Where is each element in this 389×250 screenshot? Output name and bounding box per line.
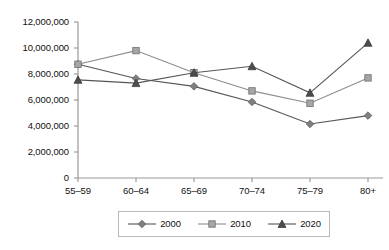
diamond-marker-icon [248,98,256,106]
legend-entry-2010[interactable]: 2010 [197,218,251,230]
x-axis-tick-label: 75–79 [280,186,340,196]
square-marker-icon [197,218,227,230]
series-line [78,51,368,104]
chart-axes [74,22,383,182]
x-axis-tick-label: 55–59 [48,186,108,196]
triangle-marker-icon [267,218,297,230]
legend-label: 2010 [230,219,251,229]
x-axis-tick-label: 60–64 [106,186,166,196]
triangle-marker-icon [248,62,256,69]
y-axis-tick-label: 12,000,000 [0,17,69,27]
square-marker-icon [75,61,81,67]
y-axis-tick-label: 0 [0,173,69,183]
diamond-marker-icon [138,220,146,228]
square-marker-icon [365,75,371,81]
square-marker-icon [249,88,255,94]
diamond-marker-icon [306,120,314,128]
square-marker-icon [133,47,139,53]
legend-entry-2000[interactable]: 2000 [127,218,181,230]
y-axis-tick-label: 8,000,000 [0,69,69,79]
chart-container: 02,000,0004,000,0006,000,0008,000,00010,… [0,0,389,250]
x-axis-tick-label: 65–69 [164,186,224,196]
y-axis-tick-label: 4,000,000 [0,121,69,131]
y-axis-tick-label: 2,000,000 [0,147,69,157]
legend-entry-2020[interactable]: 2020 [267,218,321,230]
series-line [78,43,368,93]
legend-label: 2020 [300,219,321,229]
y-axis-tick-label: 10,000,000 [0,43,69,53]
series-2010 [75,47,371,106]
series-2000 [74,60,372,127]
series-2020 [74,39,372,97]
chart-series-layer [74,39,372,128]
series-line [78,64,368,124]
x-axis-tick-label: 70–74 [222,186,282,196]
diamond-marker-icon [364,112,372,120]
diamond-marker-icon [190,83,198,91]
chart-legend: 200020102020 [118,211,330,237]
triangle-marker-icon [364,39,372,47]
diamond-marker-icon [127,218,157,230]
legend-items: 200020102020 [119,212,329,236]
legend-label: 2000 [160,219,181,229]
square-marker-icon [307,100,313,106]
y-axis-tick-label: 6,000,000 [0,95,69,105]
x-axis-tick-label: 80+ [338,186,389,196]
square-marker-icon [209,221,215,227]
